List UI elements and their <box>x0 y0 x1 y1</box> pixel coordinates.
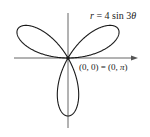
origin-annotation-right: ) <box>125 62 128 72</box>
origin-annotation-left: (0, 0) = (0, <box>79 62 120 72</box>
origin-annotation: (0, 0) = (0, π) <box>79 63 128 72</box>
origin-point <box>66 56 70 60</box>
equation-label: r = 4 sin 3θ <box>90 11 136 21</box>
equation-body: = 4 sin 3 <box>94 10 131 21</box>
equation-theta: θ <box>131 10 136 21</box>
x-axis-arrow-icon <box>131 56 138 61</box>
